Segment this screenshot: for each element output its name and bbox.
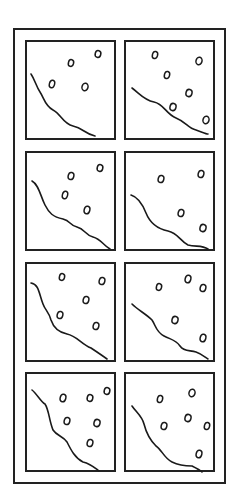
- diagram-panel-5: [25, 262, 116, 362]
- particle-oval: [86, 439, 93, 447]
- particle-oval: [68, 59, 75, 67]
- particle-oval: [103, 387, 110, 395]
- particle-oval: [195, 57, 203, 66]
- particle-oval: [197, 170, 204, 178]
- particle-oval: [86, 394, 93, 402]
- particle-oval: [184, 275, 191, 284]
- particle-oval: [184, 414, 192, 423]
- particle-oval: [67, 172, 74, 180]
- wavy-boundary-line: [132, 88, 208, 134]
- diagram-panel-1: [25, 40, 116, 140]
- particle-oval: [63, 417, 70, 425]
- particle-oval: [152, 51, 159, 59]
- particle-oval: [202, 116, 210, 125]
- particle-oval: [177, 209, 184, 217]
- particle-oval: [164, 71, 171, 79]
- particle-oval: [160, 422, 167, 430]
- diagram-panel-2: [124, 40, 215, 140]
- particle-oval: [83, 206, 90, 215]
- particle-oval: [56, 311, 63, 319]
- particle-oval: [81, 83, 89, 92]
- particle-oval: [59, 394, 66, 403]
- wavy-boundary-line: [131, 195, 208, 249]
- particle-oval: [98, 277, 105, 285]
- particle-oval: [199, 224, 207, 233]
- diagram-panel-6: [124, 262, 215, 362]
- diagram-panel-8: [124, 372, 215, 472]
- wavy-boundary-line: [31, 283, 107, 359]
- particle-oval: [169, 103, 177, 112]
- particle-oval: [82, 296, 89, 304]
- particle-oval: [185, 89, 193, 98]
- particle-oval: [188, 389, 196, 398]
- particle-oval: [204, 422, 211, 430]
- particle-oval: [199, 334, 206, 343]
- wavy-boundary-line: [32, 181, 110, 249]
- particle-oval: [93, 419, 101, 428]
- diagram-panel-3: [25, 151, 116, 251]
- particle-oval: [59, 273, 66, 281]
- particle-oval: [195, 450, 202, 459]
- wavy-boundary-line: [132, 304, 208, 359]
- particle-oval: [199, 284, 206, 292]
- particle-oval: [92, 322, 99, 330]
- particle-oval: [62, 191, 69, 200]
- particle-oval: [171, 316, 179, 325]
- particle-oval: [157, 175, 164, 183]
- diagram-panel-4: [124, 151, 215, 251]
- particle-oval: [96, 164, 103, 172]
- particle-oval: [94, 50, 101, 58]
- diagram-panel-7: [25, 372, 116, 472]
- particle-oval: [157, 395, 164, 403]
- particle-oval: [156, 283, 163, 291]
- wavy-boundary-line: [32, 390, 99, 471]
- particle-oval: [49, 80, 56, 89]
